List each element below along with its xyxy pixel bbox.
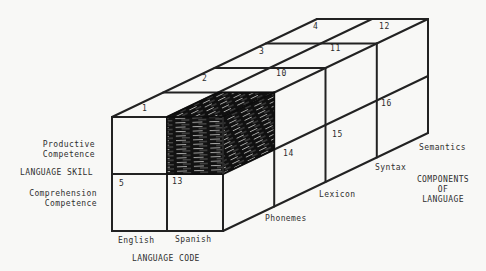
figure-language-cube: Productive Competence LANGUAGE SKILL Com… xyxy=(0,0,486,271)
shaded-block-front-face xyxy=(167,117,223,174)
axis-value-productive-competence: Productive Competence xyxy=(43,140,95,160)
axis-value-semantics: Semantics xyxy=(419,143,466,153)
axis-value-syntax: Syntax xyxy=(375,163,406,173)
axis-title-language-skill: LANGUAGE SKILL xyxy=(20,168,93,178)
cell-number-4: 4 xyxy=(313,23,318,31)
cell-number-12: 12 xyxy=(379,23,390,31)
cell-number-15: 15 xyxy=(332,131,343,139)
cell-number-2: 2 xyxy=(202,75,207,83)
shaded-cell-block xyxy=(167,93,274,175)
axis-value-lexicon: Lexicon xyxy=(319,190,356,200)
axis-value-english: English xyxy=(118,236,155,246)
cell-number-16: 16 xyxy=(381,100,392,108)
axis-value-phonemes: Phonemes xyxy=(265,214,307,224)
cube-3d-drawing xyxy=(0,0,486,271)
axis-value-spanish: Spanish xyxy=(175,235,212,245)
cell-number-1: 1 xyxy=(142,105,147,113)
cell-number-11: 11 xyxy=(330,45,341,53)
cell-number-3: 3 xyxy=(259,48,264,56)
axis-title-components-of-language: COMPONENTS OF LANGUAGE xyxy=(408,175,478,205)
cell-number-13: 13 xyxy=(172,178,183,186)
axis-value-comprehension-competence: Comprehension Competence xyxy=(29,189,97,209)
axis-title-language-code: LANGUAGE CODE xyxy=(132,254,200,264)
cell-number-14: 14 xyxy=(283,150,294,158)
cell-number-5: 5 xyxy=(119,180,124,188)
cell-number-10: 10 xyxy=(276,70,287,78)
